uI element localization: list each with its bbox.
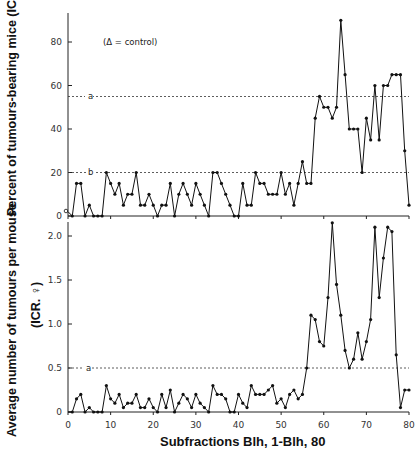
data-point [109, 182, 112, 185]
data-point [79, 393, 82, 396]
data-point [267, 388, 270, 391]
data-point [250, 204, 253, 207]
y-tick-label: 2.0 [48, 231, 63, 241]
data-point [318, 340, 321, 343]
y-tick-label: 60 [51, 81, 63, 91]
data-point [164, 204, 167, 207]
data-point [122, 204, 125, 207]
y-tick-label: 0.5 [48, 363, 62, 373]
bottom-x-ticks: 01020304050607080 [65, 412, 415, 430]
data-point [395, 353, 398, 356]
data-point [250, 384, 253, 387]
data-point [348, 127, 351, 130]
data-point [199, 193, 202, 196]
x-tick-label: 50 [275, 420, 287, 430]
data-point [275, 402, 278, 405]
ref-label-b: b [88, 167, 93, 177]
data-point [186, 193, 189, 196]
data-point [220, 393, 223, 396]
data-point [101, 214, 104, 217]
data-point [203, 406, 206, 409]
data-point [207, 214, 210, 217]
data-point [318, 95, 321, 98]
control-marker [64, 209, 68, 213]
data-point [386, 84, 389, 87]
data-point [160, 204, 163, 207]
x-axis-title: Subfractions Blh, 1-Blh, 80 [160, 434, 325, 449]
data-point [271, 193, 274, 196]
series-path [68, 223, 409, 412]
data-point [254, 171, 257, 174]
data-point [216, 393, 219, 396]
y-tick-label: 80 [51, 37, 63, 47]
data-point [71, 410, 74, 413]
chart-figure: 020406080 a b (Δ = control) 00.51.01.52.… [0, 0, 418, 453]
data-point [122, 406, 125, 409]
data-point [407, 204, 410, 207]
data-point [361, 358, 364, 361]
y-tick-label: 40 [51, 124, 63, 134]
data-point [211, 384, 214, 387]
data-point [79, 182, 82, 185]
data-point [190, 204, 193, 207]
data-point [305, 366, 308, 369]
data-point [352, 358, 355, 361]
data-point [130, 193, 133, 196]
data-point [105, 384, 108, 387]
data-point [237, 393, 240, 396]
data-point [339, 314, 342, 317]
y-tick-label: 0 [56, 211, 62, 221]
data-point [322, 344, 325, 347]
data-point [356, 127, 359, 130]
data-point [399, 406, 402, 409]
data-point [378, 138, 381, 141]
data-point [92, 410, 95, 413]
data-point [373, 226, 376, 229]
data-point [245, 406, 248, 409]
data-point [403, 149, 406, 152]
data-point [228, 410, 231, 413]
x-tick-label: 60 [318, 420, 330, 430]
data-point [407, 388, 410, 391]
data-point [152, 204, 155, 207]
x-tick-label: 10 [105, 420, 117, 430]
data-point [365, 117, 368, 120]
bottom-y-axis-title-line2: (ICR. ♀) [29, 282, 43, 328]
data-point [326, 296, 329, 299]
data-point [267, 193, 270, 196]
y-tick-label: 0 [56, 407, 62, 417]
data-point [126, 402, 129, 405]
data-point [199, 402, 202, 405]
ref-label-a: a [88, 91, 93, 101]
data-point [156, 214, 159, 217]
data-point [301, 160, 304, 163]
data-point [369, 318, 372, 321]
data-point [83, 410, 86, 413]
data-point [356, 331, 359, 334]
data-point [369, 138, 372, 141]
data-point [284, 406, 287, 409]
data-point [297, 397, 300, 400]
series-path [68, 20, 409, 216]
y-tick-label: 1.0 [48, 319, 63, 329]
data-point [292, 204, 295, 207]
data-point [314, 318, 317, 321]
data-point [173, 410, 176, 413]
data-point [139, 204, 142, 207]
data-point [399, 73, 402, 76]
data-point [96, 214, 99, 217]
data-point [130, 402, 133, 405]
data-point [241, 182, 244, 185]
data-point [254, 393, 257, 396]
data-point [96, 410, 99, 413]
data-point [101, 410, 104, 413]
data-point [88, 406, 91, 409]
data-point [143, 406, 146, 409]
data-point [203, 204, 206, 207]
data-point [233, 214, 236, 217]
data-point [105, 171, 108, 174]
data-point [348, 366, 351, 369]
data-point [309, 182, 312, 185]
data-point [322, 106, 325, 109]
data-point [284, 193, 287, 196]
